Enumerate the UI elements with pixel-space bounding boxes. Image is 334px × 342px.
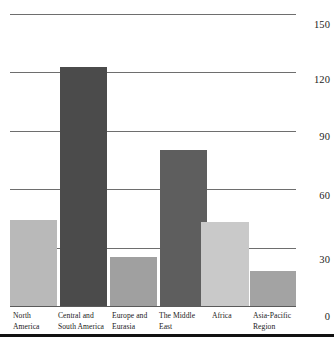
- xlabel-central-and-south-america-line2: South America: [58, 322, 108, 333]
- bar-europe-and-eurasia: [110, 257, 157, 306]
- xlabel-north-america-line2: America: [13, 322, 58, 333]
- xlabel-north-america: North America: [13, 311, 58, 333]
- ytick-label-90: 90: [296, 132, 330, 143]
- ytick-60-text: 60: [319, 190, 330, 201]
- xlabel-asia-pacific-region: Asia-Pacific Region: [253, 311, 301, 333]
- bar-central-and-south-america: [60, 67, 107, 306]
- bar-africa: [201, 222, 249, 306]
- ytick-0-text: 0: [325, 311, 330, 322]
- xlabel-europe-and-eurasia-line2: Eurasia: [112, 322, 160, 333]
- xlabel-europe-and-eurasia: Europe and Eurasia: [112, 311, 160, 333]
- xlabel-africa: Africa: [212, 311, 252, 322]
- bar-asia-pacific-region: [250, 271, 296, 306]
- xlabel-the-middle-east-line2: East: [159, 322, 207, 333]
- ytick-120-text: 120: [314, 74, 330, 85]
- ytick-label-120: 120: [296, 75, 330, 86]
- gridline-120: [10, 72, 296, 73]
- xlabel-the-middle-east: The Middle East: [159, 311, 207, 333]
- axis-baseline: [10, 306, 296, 307]
- bottom-rule: [0, 334, 334, 337]
- ytick-150-text: 150: [314, 19, 330, 30]
- gridline-90: [10, 131, 296, 132]
- ytick-label-150: 150: [296, 20, 330, 31]
- plot-area: [10, 14, 296, 306]
- xlabel-asia-pacific-region-line1: Asia-Pacific: [253, 311, 301, 322]
- ytick-label-0: 0: [296, 312, 330, 323]
- ytick-30-text: 30: [319, 254, 330, 265]
- gridline-60: [10, 189, 296, 190]
- xlabel-the-middle-east-line1: The Middle: [159, 311, 207, 322]
- xlabel-north-america-line1: North: [13, 311, 58, 322]
- gridline-150: [10, 14, 296, 15]
- bar-north-america: [10, 220, 57, 306]
- xlabel-asia-pacific-region-line2: Region: [253, 322, 301, 333]
- ytick-label-60: 60: [296, 191, 330, 202]
- xlabel-central-and-south-america-line1: Central and: [58, 311, 108, 322]
- xlabel-africa-line1: Africa: [212, 311, 252, 322]
- ytick-90-text: 90: [319, 131, 330, 142]
- ytick-label-30: 30: [296, 255, 330, 266]
- bar-chart: 150 120 90 60 30 0 North America Central…: [0, 0, 334, 342]
- xlabel-europe-and-eurasia-line1: Europe and: [112, 311, 160, 322]
- xlabel-central-and-south-america: Central and South America: [58, 311, 108, 333]
- bar-the-middle-east: [160, 150, 207, 306]
